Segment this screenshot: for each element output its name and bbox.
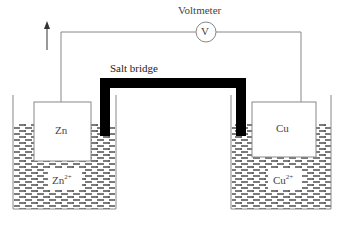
voltmeter-symbol: V — [201, 25, 209, 37]
voltmeter-label: Voltmeter — [178, 4, 221, 16]
cathode-ion-charge: 2+ — [286, 173, 293, 181]
cathode-ion-label: Cu2+ — [273, 173, 293, 186]
external-wire — [61, 32, 301, 102]
anode-ion-label: Zn2+ — [52, 173, 72, 186]
current-arrow-icon — [44, 21, 50, 50]
cathode-label: Cu — [276, 122, 289, 134]
galvanic-cell-diagram — [0, 0, 346, 226]
anode-ion-base: Zn — [52, 174, 64, 186]
salt-bridge-label: Salt bridge — [110, 62, 158, 74]
salt-bridge — [100, 78, 246, 136]
anode-ion-charge: 2+ — [64, 173, 71, 181]
cathode-ion-base: Cu — [273, 174, 286, 186]
anode-label: Zn — [55, 124, 67, 136]
